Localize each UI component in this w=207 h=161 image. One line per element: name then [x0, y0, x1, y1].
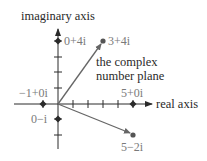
point-label-0+4i: 0+4i: [64, 34, 87, 48]
complex-plane-diagram: imaginary axis real axis 0+4i 3+4i −1+0i…: [0, 0, 207, 161]
point-label-0-i: 0−i: [31, 112, 48, 126]
point-label-5+0i: 5+0i: [121, 86, 144, 100]
vector-3+4i: [58, 44, 101, 104]
imaginary-axis-label: imaginary axis: [21, 9, 95, 23]
diamond-marker-0+4i: [55, 38, 62, 45]
point-label-5-2i: 5−2i: [121, 140, 144, 154]
point-label-3+4i: 3+4i: [108, 34, 131, 48]
caption-line-1: the complex: [96, 55, 158, 69]
diamond-marker-5+0i: [130, 101, 137, 108]
point-label--1+0i: −1+0i: [19, 86, 49, 100]
circle-marker-5-2i: [130, 132, 135, 137]
diamond-marker-0-i: [55, 116, 62, 123]
circle-marker-3+4i: [100, 38, 105, 43]
caption-line-2: number plane: [96, 69, 165, 83]
real-axis-label: real axis: [156, 97, 198, 111]
vector-5-2i: [58, 104, 130, 133]
diamond-marker--1+0i: [40, 101, 47, 108]
